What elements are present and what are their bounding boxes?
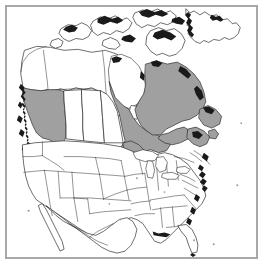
artifact-speck-d xyxy=(236,184,238,186)
map-figure: Outline map of North America with select… xyxy=(0,0,265,266)
north-america-map xyxy=(7,7,256,257)
east-coast-detail-4 xyxy=(202,153,209,162)
water-lake-michigan xyxy=(146,161,155,179)
region-quebec-labrador xyxy=(135,61,206,135)
map-frame: Outline map of North America with select… xyxy=(5,5,258,259)
florida-keys-detail xyxy=(190,253,196,257)
bc-coast-island-c xyxy=(19,129,25,137)
region-greenland xyxy=(186,9,240,43)
bc-coast-island-a xyxy=(18,101,23,108)
region-arctic-islands-small-a xyxy=(50,38,63,48)
region-cape-breton xyxy=(209,129,219,139)
artifact-speck-e xyxy=(213,243,215,245)
artifact-speck-a xyxy=(28,210,30,212)
artifact-speck-g xyxy=(164,191,166,193)
region-alberta xyxy=(64,90,84,141)
bc-coast-island-b xyxy=(17,115,23,123)
region-arctic-islands-banks xyxy=(59,23,91,42)
artifact-speck-c xyxy=(193,239,195,241)
region-british-columbia xyxy=(23,88,66,144)
arctic-coast-detail-f xyxy=(121,35,136,43)
artifact-speck-h xyxy=(108,203,110,205)
artifact-speck-b xyxy=(119,219,121,221)
artifact-speck-f xyxy=(136,177,138,179)
artifact-speck-i xyxy=(240,122,242,124)
region-arctic-islands-small-b xyxy=(102,38,120,50)
subdivision-ny-ne xyxy=(190,153,202,162)
region-florida xyxy=(178,225,198,254)
